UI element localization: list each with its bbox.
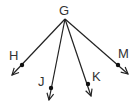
point-k-dot (86, 82, 90, 86)
point-label-h: H (9, 48, 18, 63)
rays-group: HJKM (9, 19, 129, 100)
point-label-k: K (92, 69, 101, 84)
vertex-label-g: G (59, 3, 69, 18)
ray-diagram: G HJKM (0, 0, 138, 107)
point-j-dot (49, 86, 53, 90)
ray-gh (12, 19, 65, 75)
point-m-dot (116, 63, 120, 67)
point-label-j: J (38, 74, 45, 89)
point-h-dot (20, 63, 24, 67)
point-label-m: M (118, 46, 129, 61)
